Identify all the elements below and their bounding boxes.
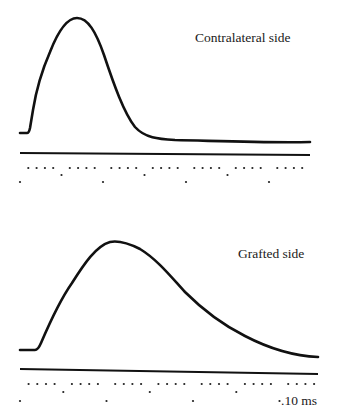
figure: Contralateral side Grafted side .10 ms <box>0 0 343 407</box>
time-marker-dot <box>140 383 142 385</box>
time-marker-dot <box>287 383 289 385</box>
time-marker-dot <box>160 167 162 169</box>
time-marker-dot <box>296 383 298 385</box>
time-marker-dot <box>261 383 263 385</box>
time-marker-dot <box>69 167 71 169</box>
time-marker-dot <box>253 383 255 385</box>
time-marker-dot <box>149 391 151 393</box>
time-marker-dot <box>276 167 278 169</box>
panel-grafted: Grafted side <box>19 241 318 402</box>
time-marker-dot <box>85 167 87 169</box>
time-marker-dot <box>45 383 47 385</box>
time-marker-dot <box>209 383 211 385</box>
time-marker-dot <box>19 400 21 402</box>
time-marker-dot <box>268 181 270 183</box>
time-marker-dot <box>80 383 82 385</box>
time-marker-dot <box>175 383 177 385</box>
time-marker-dot <box>202 167 204 169</box>
time-marker-dot <box>110 167 112 169</box>
time-marker-dot <box>77 167 79 169</box>
time-marker-dot <box>183 383 185 385</box>
time-marker-dot <box>62 391 64 393</box>
time-marker-dot <box>152 167 154 169</box>
time-marker-dot <box>54 383 56 385</box>
time-marker-dot <box>293 167 295 169</box>
time-marker-dot <box>105 400 107 402</box>
time-marker-dot <box>71 383 73 385</box>
time-marker-dot <box>119 167 121 169</box>
baseline-contralateral <box>20 153 310 155</box>
time-marker-dot <box>285 167 287 169</box>
time-marker-dots-contralateral <box>19 167 303 183</box>
time-marker-dot <box>251 167 253 169</box>
time-marker-dot <box>177 167 179 169</box>
time-marker-dot <box>88 383 90 385</box>
time-marker-dot <box>94 167 96 169</box>
time-marker-dot <box>304 383 306 385</box>
panel-label-grafted: Grafted side <box>238 246 304 261</box>
time-marker-dot <box>114 383 116 385</box>
time-marker-dot <box>19 181 21 183</box>
panel-contralateral: Contralateral side <box>19 18 310 183</box>
time-marker-dot <box>235 391 237 393</box>
time-marker-dot <box>97 383 99 385</box>
time-marker-dots-grafted <box>19 383 315 402</box>
time-marker-dot <box>36 383 38 385</box>
time-marker-dot <box>127 167 129 169</box>
time-marker-dot <box>270 383 272 385</box>
time-marker-dot <box>243 167 245 169</box>
time-marker-dot <box>313 383 315 385</box>
time-marker-dot <box>218 167 220 169</box>
time-marker-dot <box>260 167 262 169</box>
time-marker-dot <box>135 167 137 169</box>
time-marker-dot <box>143 174 145 176</box>
time-marker-dot <box>123 383 125 385</box>
time-marker-dot <box>168 167 170 169</box>
time-marker-dot <box>201 383 203 385</box>
time-marker-dot <box>301 167 303 169</box>
time-marker-dot <box>244 383 246 385</box>
time-marker-dot <box>44 167 46 169</box>
time-marker-dot <box>28 383 30 385</box>
time-marker-dot <box>52 167 54 169</box>
time-scale-label: .10 ms <box>281 393 317 407</box>
time-marker-dot <box>193 167 195 169</box>
time-marker-dot <box>102 181 104 183</box>
time-marker-dot <box>157 383 159 385</box>
time-marker-dot <box>60 174 62 176</box>
time-marker-dot <box>36 167 38 169</box>
time-marker-dot <box>226 174 228 176</box>
panel-label-contralateral: Contralateral side <box>195 30 291 45</box>
time-marker-dot <box>166 383 168 385</box>
time-marker-dot <box>218 383 220 385</box>
baseline-grafted <box>20 369 318 374</box>
time-marker-dot <box>131 383 133 385</box>
time-marker-dot <box>192 400 194 402</box>
time-marker-dot <box>27 167 29 169</box>
time-marker-dot <box>235 167 237 169</box>
time-marker-dot <box>227 383 229 385</box>
time-marker-dot <box>210 167 212 169</box>
time-marker-dot <box>185 181 187 183</box>
